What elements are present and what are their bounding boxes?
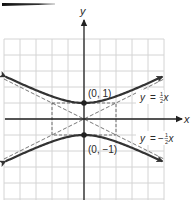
vertex-point-top [81, 100, 87, 106]
svg-text:y: y [139, 92, 146, 103]
svg-text:−: − [158, 133, 164, 144]
vertex-point-bottom [81, 132, 87, 138]
svg-text:x: x [163, 92, 170, 103]
svg-text:x: x [168, 133, 175, 144]
header-bar [2, 3, 55, 6]
svg-text:y: y [139, 133, 146, 144]
asymptote-label-positive: y = 1 2 x [136, 90, 170, 104]
asymptote-label-negative: y = − 1 2 x [136, 131, 175, 145]
vertex-label-bottom: (0, −1) [88, 144, 117, 155]
y-axis-label: y [79, 5, 87, 17]
x-axis-label: x [183, 113, 190, 125]
hyperbola-graph: x y (0, 1) (0, −1) y = 1 2 x y = − 1 2 x [0, 0, 192, 200]
vertex-label-top: (0, 1) [88, 88, 111, 99]
svg-text:=: = [150, 92, 156, 103]
svg-text:=: = [150, 133, 156, 144]
